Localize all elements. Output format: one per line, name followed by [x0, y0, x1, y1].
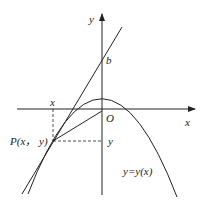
diagram-canvas: y x O b P(x， y) x y y=y(x): [0, 0, 204, 205]
diagram-graphics: [0, 0, 204, 205]
y-projection-label: y: [108, 136, 113, 147]
point-p-label: P(x， y): [10, 136, 48, 147]
tangent-line: [22, 27, 122, 194]
intercept-b-label: b: [106, 55, 112, 66]
x-axis-label: x: [185, 117, 190, 128]
segment-op: [53, 111, 102, 141]
y-axis-label: y: [89, 14, 94, 25]
curve-label: y=y(x): [123, 166, 152, 177]
x-projection-label: x: [50, 97, 55, 108]
origin-label: O: [106, 113, 114, 124]
